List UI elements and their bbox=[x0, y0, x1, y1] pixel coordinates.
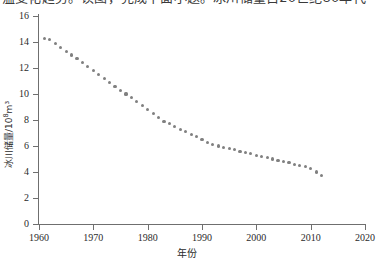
x-tick-2010 bbox=[311, 225, 312, 230]
y-axis-label: 冰川储量/108m³ bbox=[0, 78, 14, 188]
y-axis-label-text: 冰川储量/108m³ bbox=[1, 80, 14, 190]
y-tick-8 bbox=[33, 120, 38, 121]
x-tick-label-2020: 2020 bbox=[345, 232, 380, 243]
data-point bbox=[86, 65, 89, 68]
data-point bbox=[135, 100, 138, 103]
data-point bbox=[293, 163, 296, 166]
data-point bbox=[298, 164, 301, 167]
data-point bbox=[260, 155, 263, 158]
data-point bbox=[179, 128, 182, 131]
data-point bbox=[146, 108, 149, 111]
data-point bbox=[276, 159, 279, 162]
y-tick-label-2: 2 bbox=[3, 193, 29, 203]
data-point bbox=[130, 96, 133, 99]
y-tick-label-0: 0 bbox=[3, 219, 29, 229]
y-tick-label-16: 16 bbox=[3, 11, 29, 21]
data-point bbox=[217, 144, 220, 147]
data-point bbox=[255, 154, 258, 157]
data-point bbox=[152, 112, 155, 115]
data-point bbox=[211, 143, 214, 146]
data-point bbox=[190, 133, 193, 136]
data-point bbox=[309, 167, 312, 170]
data-point bbox=[141, 104, 144, 107]
data-point bbox=[287, 161, 290, 164]
data-point bbox=[206, 141, 209, 144]
y-tick-label-12: 12 bbox=[3, 63, 29, 73]
x-tick-1980 bbox=[148, 225, 149, 230]
x-tick-label-1980: 1980 bbox=[128, 232, 168, 243]
x-tick-1960 bbox=[39, 225, 40, 230]
y-tick-0 bbox=[33, 224, 38, 225]
data-point bbox=[320, 174, 323, 177]
data-point bbox=[228, 147, 231, 150]
x-tick-2020 bbox=[365, 225, 366, 230]
data-point bbox=[59, 46, 62, 49]
x-tick-label-1990: 1990 bbox=[182, 232, 222, 243]
x-tick-label-2000: 2000 bbox=[236, 232, 276, 243]
x-tick-1990 bbox=[202, 225, 203, 230]
data-point bbox=[249, 152, 252, 155]
data-point bbox=[119, 89, 122, 92]
data-point bbox=[48, 38, 51, 41]
data-point bbox=[304, 165, 307, 168]
y-tick-6 bbox=[33, 146, 38, 147]
x-tick-label-1960: 1960 bbox=[19, 232, 59, 243]
x-tick-label-2010: 2010 bbox=[291, 232, 331, 243]
data-point bbox=[97, 73, 100, 76]
y-tick-2 bbox=[33, 198, 38, 199]
data-point bbox=[195, 135, 198, 138]
x-axis-label: 年份 bbox=[0, 248, 374, 259]
y-tick-10 bbox=[33, 94, 38, 95]
data-point bbox=[113, 85, 116, 88]
data-point bbox=[124, 92, 127, 95]
data-point bbox=[75, 57, 78, 60]
data-point bbox=[200, 138, 203, 141]
data-point bbox=[103, 77, 106, 80]
data-point bbox=[162, 120, 165, 123]
y-tick-16 bbox=[33, 16, 38, 17]
data-point bbox=[222, 146, 225, 149]
data-point bbox=[81, 61, 84, 64]
y-tick-label-14: 14 bbox=[3, 37, 29, 47]
plot-area bbox=[39, 16, 365, 224]
x-tick-label-1970: 1970 bbox=[73, 232, 113, 243]
data-point bbox=[271, 157, 274, 160]
x-tick-1970 bbox=[93, 225, 94, 230]
data-point bbox=[92, 69, 95, 72]
data-point bbox=[108, 81, 111, 84]
data-point bbox=[244, 151, 247, 154]
data-point bbox=[168, 122, 171, 125]
y-tick-12 bbox=[33, 68, 38, 69]
data-point bbox=[54, 42, 57, 45]
data-point bbox=[266, 156, 269, 159]
x-tick-2000 bbox=[256, 225, 257, 230]
data-point bbox=[65, 50, 68, 53]
data-point bbox=[233, 148, 236, 151]
data-point bbox=[184, 130, 187, 133]
data-point bbox=[43, 37, 46, 40]
y-tick-4 bbox=[33, 172, 38, 173]
data-point bbox=[157, 116, 160, 119]
data-point bbox=[173, 125, 176, 128]
data-point bbox=[315, 170, 318, 173]
data-point bbox=[282, 160, 285, 163]
data-point bbox=[70, 53, 73, 56]
y-tick-14 bbox=[33, 42, 38, 43]
data-point bbox=[238, 150, 241, 153]
